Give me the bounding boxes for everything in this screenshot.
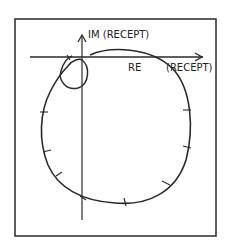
small-loop-curve	[60, 56, 87, 89]
real-axis-label: RE	[128, 62, 141, 73]
tick-marks	[40, 55, 191, 206]
imaginary-axis-label: IM (RECEPT)	[88, 29, 149, 40]
polar-diagram: IM (RECEPT) RE (RECEPT)	[0, 0, 229, 251]
real-axis	[30, 53, 203, 61]
real-axis-unit-label: (RECEPT)	[166, 62, 213, 73]
